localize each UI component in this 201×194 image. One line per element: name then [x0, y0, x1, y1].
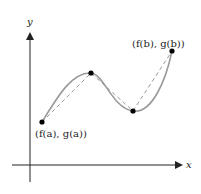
- point-start: [39, 119, 44, 124]
- curve: [42, 51, 172, 122]
- x-axis-label: x: [186, 159, 192, 170]
- point-peak: [88, 70, 93, 75]
- y-axis-label: y: [26, 16, 33, 27]
- point-end: [169, 48, 174, 53]
- point-valley: [130, 108, 135, 113]
- start-point-label: (f(a), g(a)): [35, 128, 87, 139]
- end-point-label: (f(b), g(b)): [132, 38, 185, 49]
- parametric-curve-diagram: y x (f(a), g(a)) (f(b), g(b)): [0, 0, 201, 194]
- polygonal-approximation: [42, 51, 172, 122]
